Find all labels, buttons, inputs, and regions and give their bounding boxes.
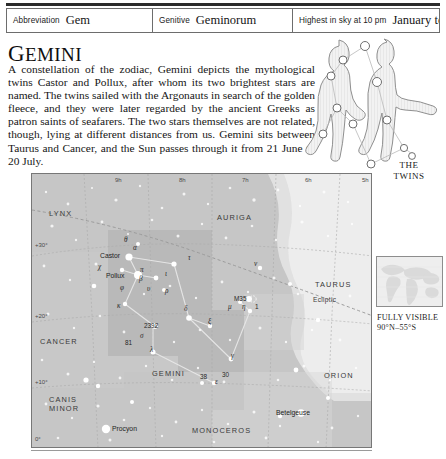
fact-label-genitive: Genitive — [159, 16, 190, 25]
fact-cell-abbreviation: Abbreviation Gem — [7, 9, 152, 32]
fact-value-highest-in-sky: January to February — [392, 13, 439, 28]
fact-cell-highest-in-sky: Highest in sky at 10 pm January to Febru… — [292, 9, 439, 32]
fact-label-highest-in-sky: Highest in sky at 10 pm — [299, 16, 386, 25]
visibility-note: FULLY VISIBLE 90°N–55°S — [377, 313, 446, 333]
top-divider — [6, 3, 440, 6]
visibility-world-map — [376, 256, 443, 307]
caption-line-1: THE — [378, 160, 440, 171]
illustration-caption: THE TWINS — [378, 160, 440, 181]
visibility-range: 90°N–55°S — [377, 323, 446, 333]
fact-cell-genitive: Genitive Geminorum — [152, 9, 292, 32]
bottom-divider — [31, 450, 372, 451]
twins-illustration — [305, 38, 446, 172]
fact-table: Abbreviation Gem Genitive Geminorum High… — [6, 8, 440, 33]
article-body: A constellation of the zodiac, Gemini de… — [8, 63, 315, 168]
star-chart[interactable]: 9h 8h 7h 6h 5h +30° +20° +10° 0° LYNX AU… — [31, 173, 372, 448]
caption-line-2: TWINS — [378, 171, 440, 182]
page-title-rest: EMINI — [25, 44, 82, 65]
fact-value-abbreviation: Gem — [66, 13, 90, 28]
visibility-heading: FULLY VISIBLE — [377, 313, 446, 323]
fact-label-abbreviation: Abbreviation — [13, 16, 60, 25]
constellation-page: Abbreviation Gem Genitive Geminorum High… — [0, 0, 446, 459]
fact-value-genitive: Geminorum — [196, 13, 256, 28]
